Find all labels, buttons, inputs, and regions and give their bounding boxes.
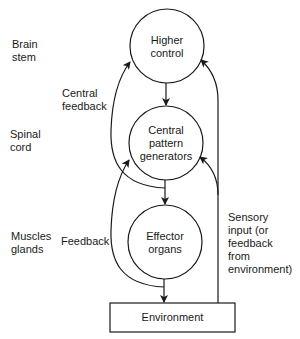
- level-spinal-cord-label: Spinal cord: [10, 128, 41, 154]
- sensory-input-label: Sensory input (or feedback from environm…: [228, 211, 292, 276]
- level-brain-stem-label: Brain stem: [12, 38, 38, 64]
- environment-label: Environment: [110, 311, 235, 324]
- sensory-input-arrow-top: [201, 60, 218, 303]
- level-muscles-glands-label: Muscles glands: [11, 230, 51, 256]
- cpg-label: Central pattern generators: [126, 124, 206, 163]
- feedback-label: Feedback: [61, 235, 109, 248]
- central-feedback-label: Central feedback: [62, 87, 107, 113]
- effector-label: Effector organs: [125, 230, 205, 256]
- higher-control-label: Higher control: [127, 34, 207, 60]
